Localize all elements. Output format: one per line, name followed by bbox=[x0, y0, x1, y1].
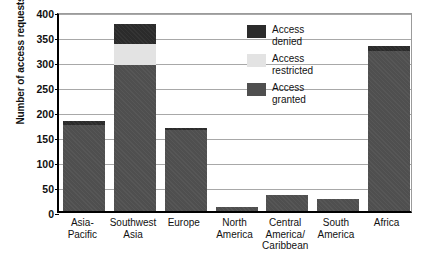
bar-segment-granted[interactable] bbox=[114, 65, 156, 211]
bar-segment-granted[interactable] bbox=[165, 130, 207, 211]
legend-item[interactable]: Accessdenied bbox=[247, 24, 357, 47]
bar-chart: Number of access requests 05010015020025… bbox=[0, 0, 432, 265]
bar-segment-granted[interactable] bbox=[317, 199, 359, 212]
bar-group[interactable] bbox=[368, 11, 410, 211]
x-axis-label: Europe bbox=[158, 217, 209, 229]
x-axis-label: SouthAmerica bbox=[311, 217, 362, 240]
x-axis-label: CentralAmerica/Caribbean bbox=[260, 217, 311, 252]
y-axis-tick-label: 100 bbox=[36, 158, 54, 170]
legend-swatch bbox=[247, 83, 266, 96]
bar-segment-denied[interactable] bbox=[114, 24, 156, 44]
y-axis-tick-label: 200 bbox=[36, 108, 54, 120]
bar-group[interactable] bbox=[114, 11, 156, 211]
bar-group[interactable] bbox=[165, 11, 207, 211]
legend-swatch bbox=[247, 25, 266, 38]
bar-segment-denied[interactable] bbox=[63, 121, 105, 125]
bar-segment-restricted[interactable] bbox=[114, 44, 156, 66]
plot-area: 050100150200250300350400 bbox=[57, 13, 412, 213]
bar-segment-denied[interactable] bbox=[368, 46, 410, 51]
y-axis-tick-label: 0 bbox=[48, 208, 54, 220]
y-axis-tick-label: 350 bbox=[36, 33, 54, 45]
legend-swatch bbox=[247, 54, 266, 67]
y-axis-tickmark bbox=[55, 214, 59, 215]
y-axis-tick-label: 150 bbox=[36, 133, 54, 145]
bar-segment-granted[interactable] bbox=[368, 51, 410, 211]
x-axis-label: NorthAmerica bbox=[209, 217, 260, 240]
bar-segment-denied[interactable] bbox=[165, 128, 207, 130]
legend-label: Accessgranted bbox=[272, 82, 306, 105]
x-axis-label: Africa bbox=[361, 217, 412, 229]
bar-segment-granted[interactable] bbox=[63, 125, 105, 211]
y-axis-tick-label: 400 bbox=[36, 8, 54, 20]
bar-series-container bbox=[59, 14, 411, 211]
bar-segment-granted[interactable] bbox=[266, 195, 308, 212]
legend-item[interactable]: Accessrestricted bbox=[247, 53, 357, 76]
chart-legend: AccessdeniedAccessrestrictedAccessgrante… bbox=[247, 24, 357, 111]
bar-segment-granted[interactable] bbox=[216, 207, 258, 211]
legend-label: Accessrestricted bbox=[272, 53, 313, 76]
y-axis-tick-label: 50 bbox=[42, 183, 54, 195]
x-axis-label: Asia-Pacific bbox=[57, 217, 108, 240]
y-axis-tick-label: 300 bbox=[36, 58, 54, 70]
y-axis-tick-label: 250 bbox=[36, 83, 54, 95]
x-axis-labels: Asia-PacificSouthwestAsiaEuropeNorthAmer… bbox=[57, 217, 412, 263]
legend-label: Accessdenied bbox=[272, 24, 304, 47]
bar-group[interactable] bbox=[63, 11, 105, 211]
legend-item[interactable]: Accessgranted bbox=[247, 82, 357, 105]
x-axis-label: SouthwestAsia bbox=[108, 217, 159, 240]
y-axis-title: Number of access requests bbox=[15, 0, 26, 151]
